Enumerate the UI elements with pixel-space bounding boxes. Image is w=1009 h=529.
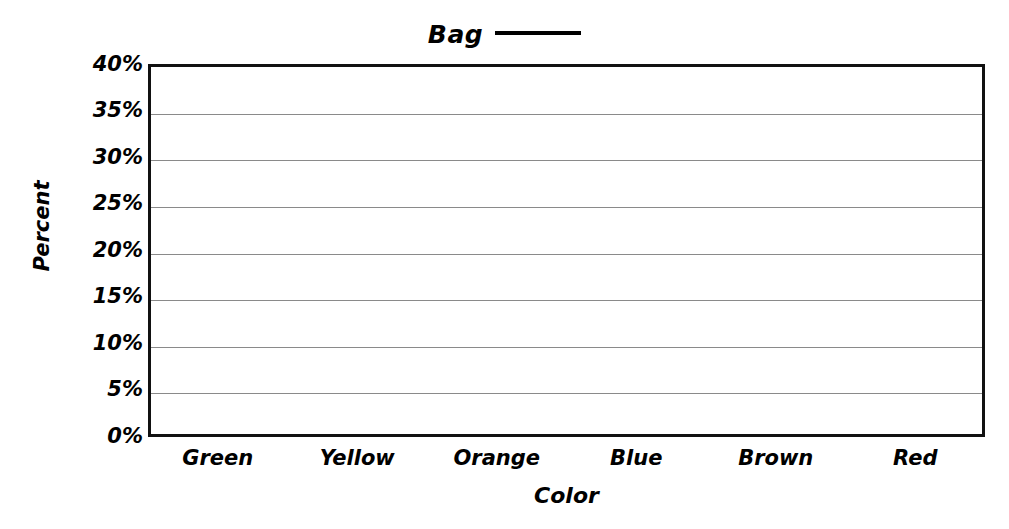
y-tick-label-0: 0% [23,426,143,447]
y-tick-label-20: 20% [23,240,143,261]
title-blank-line [495,31,581,35]
x-tick-label-blue: Blue [567,446,707,470]
y-tick-label-15: 15% [23,286,143,307]
x-tick-label-orange: Orange [427,446,567,470]
y-tick-label-5: 5% [23,379,143,400]
y-tick-label-35: 35% [23,100,143,121]
y-tick-label-10: 10% [23,333,143,354]
plot-series-empty [151,67,982,434]
bar-chart-worksheet: Bag Percent 40% 35% 30% 25% 20% 15% 10% … [0,0,1009,529]
chart-title-text: Bag [428,20,483,49]
x-tick-label-red: Red [846,446,986,470]
y-tick-label-25: 25% [23,193,143,214]
y-tick-label-30: 30% [23,147,143,168]
y-tick-label-40: 40% [23,54,143,75]
x-axis-title: Color [148,483,985,508]
x-tick-label-brown: Brown [706,446,846,470]
chart-title: Bag [0,20,1009,49]
x-axis-tick-labels: Green Yellow Orange Blue Brown Red [148,446,985,470]
plot-area [148,64,985,437]
x-tick-label-yellow: Yellow [288,446,428,470]
x-tick-label-green: Green [148,446,288,470]
y-axis-title: Percent [30,166,54,286]
